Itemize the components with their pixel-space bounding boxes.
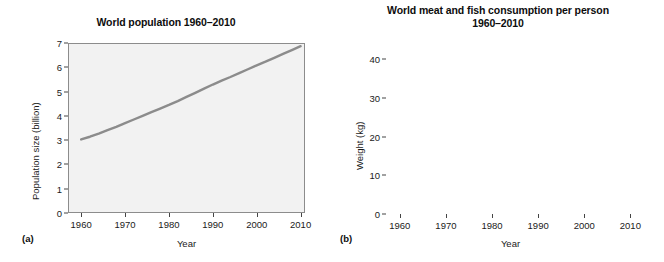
panel-b-x-axis-label: Year xyxy=(386,238,635,249)
y-tick-label: 30 xyxy=(356,93,380,104)
x-tick-mark xyxy=(169,213,170,217)
y-tick-label: 6 xyxy=(38,62,62,73)
panel-b-meat-fish-consumption: World meat and fish consumption per pers… xyxy=(332,0,664,262)
y-tick-mark xyxy=(382,175,386,176)
panel-b-title-line2: 1960–2010 xyxy=(332,17,664,30)
y-tick-mark xyxy=(382,98,386,99)
x-tick-mark xyxy=(446,214,447,218)
panel-b-letter: (b) xyxy=(340,233,352,244)
y-tick-mark xyxy=(382,59,386,60)
y-tick-label: 10 xyxy=(356,170,380,181)
y-tick-mark xyxy=(64,115,68,116)
y-tick-mark xyxy=(64,91,68,92)
y-tick-label: 2 xyxy=(38,159,62,170)
y-tick-label: 1 xyxy=(38,183,62,194)
x-tick-label: 1970 xyxy=(114,219,135,230)
y-tick-label: 40 xyxy=(356,54,380,65)
y-tick-mark xyxy=(64,164,68,165)
x-tick-label: 2000 xyxy=(574,220,595,231)
x-tick-mark xyxy=(81,213,82,217)
panel-a-world-population: World population 1960–2010 0123456719601… xyxy=(0,0,332,262)
panel-b-title-line1: World meat and fish consumption per pers… xyxy=(332,4,664,17)
panel-a-title: World population 1960–2010 xyxy=(0,16,332,29)
series-line-world-population xyxy=(81,46,300,139)
x-tick-label: 2010 xyxy=(290,219,311,230)
x-tick-label: 1960 xyxy=(389,220,410,231)
x-tick-label: 1980 xyxy=(481,220,502,231)
x-tick-mark xyxy=(630,214,631,218)
panel-b-y-axis-label: Weight (kg) xyxy=(354,122,365,170)
y-tick-label: 0 xyxy=(356,209,380,220)
x-tick-mark xyxy=(492,214,493,218)
x-tick-label: 2000 xyxy=(246,219,267,230)
y-tick-mark xyxy=(64,140,68,141)
panel-a-x-axis-label: Year xyxy=(68,238,305,249)
x-tick-mark xyxy=(301,213,302,217)
x-tick-label: 1960 xyxy=(71,219,92,230)
x-tick-label: 1980 xyxy=(158,219,179,230)
panel-a-plot-area xyxy=(68,43,305,213)
y-tick-label: 4 xyxy=(38,110,62,121)
y-tick-mark xyxy=(382,214,386,215)
y-tick-label: 0 xyxy=(38,208,62,219)
x-tick-mark xyxy=(584,214,585,218)
y-tick-mark xyxy=(64,213,68,214)
y-tick-label: 7 xyxy=(38,38,62,49)
x-tick-mark xyxy=(125,213,126,217)
x-tick-mark xyxy=(538,214,539,218)
y-tick-mark xyxy=(382,136,386,137)
y-tick-mark xyxy=(64,188,68,189)
x-tick-mark xyxy=(257,213,258,217)
x-tick-label: 1970 xyxy=(435,220,456,231)
y-tick-label: 3 xyxy=(38,135,62,146)
x-tick-mark xyxy=(400,214,401,218)
panel-a-y-axis-label: Population size (billion) xyxy=(30,102,41,200)
figure-container: World population 1960–2010 0123456719601… xyxy=(0,0,664,262)
y-tick-mark xyxy=(64,43,68,44)
x-tick-label: 1990 xyxy=(202,219,223,230)
panel-a-letter: (a) xyxy=(22,233,34,244)
y-tick-label: 5 xyxy=(38,86,62,97)
x-tick-label: 2010 xyxy=(620,220,641,231)
panel-a-line-svg xyxy=(68,43,305,213)
x-tick-label: 1990 xyxy=(528,220,549,231)
y-tick-mark xyxy=(64,67,68,68)
x-tick-mark xyxy=(213,213,214,217)
